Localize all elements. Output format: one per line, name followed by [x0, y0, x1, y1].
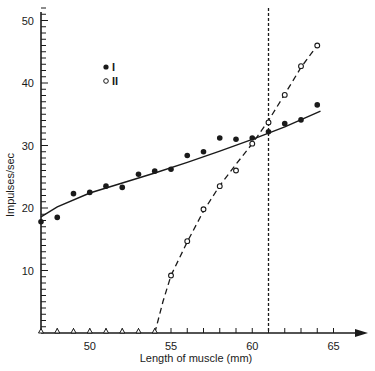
series-II-point — [234, 168, 239, 173]
series-I-point — [136, 171, 142, 177]
zero-response-triangle-icon — [152, 329, 157, 334]
series-I-point — [38, 219, 44, 225]
series-I-point — [54, 215, 60, 221]
zero-response-triangle-icon — [104, 329, 109, 334]
series-I-fit-line — [41, 111, 321, 217]
series-I-point — [71, 191, 77, 197]
series-I-point — [266, 129, 272, 135]
series-I-point — [282, 121, 288, 127]
series-I-point — [201, 149, 207, 155]
x-axis-arrow-icon — [355, 329, 368, 337]
y-tick-label: 40 — [22, 77, 34, 89]
y-axis-label: Impulses/sec — [4, 152, 16, 217]
zero-response-triangle-icon — [120, 329, 125, 334]
legend-marker-filled — [103, 64, 108, 69]
series-II-fit-line — [155, 46, 317, 334]
legend-label-II: II — [112, 75, 118, 87]
series-II-point — [266, 120, 271, 125]
y-tick-label: 10 — [22, 265, 34, 277]
series-II-point — [185, 239, 190, 244]
series-II-point — [282, 92, 287, 97]
series-II-point — [201, 207, 206, 212]
series-I-point — [184, 153, 190, 159]
x-tick-label: 55 — [165, 340, 177, 352]
axes: 102030405050556065 — [22, 8, 368, 352]
y-tick-label: 20 — [22, 202, 34, 214]
legend-marker-open — [104, 79, 109, 84]
zero-response-triangle-icon — [55, 329, 60, 334]
series-II-point — [217, 184, 222, 189]
muscle-impulse-chart: 102030405050556065 Impulses/sec Length o… — [0, 0, 375, 371]
x-tick-label: 50 — [84, 340, 96, 352]
series-I-point — [249, 135, 255, 141]
series-I-point — [152, 168, 158, 174]
zero-response-triangle-icon — [71, 329, 76, 334]
y-tick-label: 50 — [22, 15, 34, 27]
series-II-point — [250, 141, 255, 146]
series-I-point — [87, 190, 93, 196]
legend: I II — [103, 61, 118, 87]
series-I-point — [168, 166, 174, 172]
series-I-point — [103, 183, 109, 189]
series-II-point — [169, 273, 174, 278]
series-I-point — [233, 136, 239, 142]
x-axis-label: Length of muscle (mm) — [140, 352, 252, 364]
x-tick-label: 60 — [246, 340, 258, 352]
series-I-point — [217, 135, 223, 141]
zero-response-triangle-icon — [87, 329, 92, 334]
series-I-point — [314, 102, 320, 108]
series-II-point — [315, 43, 320, 48]
x-tick-label: 65 — [327, 340, 339, 352]
y-tick-label: 30 — [22, 140, 34, 152]
series-I-point — [119, 185, 125, 191]
series-I-point — [298, 117, 304, 123]
series-II-point — [299, 64, 304, 69]
plot-area — [38, 8, 320, 333]
zero-response-triangle-icon — [39, 329, 44, 334]
zero-response-triangle-icon — [136, 329, 141, 334]
legend-label-I: I — [112, 61, 115, 73]
